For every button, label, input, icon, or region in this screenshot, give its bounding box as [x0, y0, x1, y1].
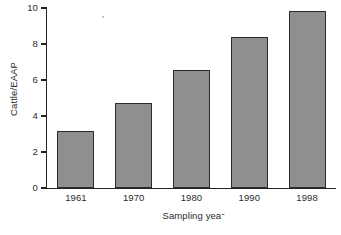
bars-layer	[47, 8, 336, 188]
y-axis-tick-label: 10	[27, 3, 38, 13]
bar-1961	[57, 131, 94, 188]
bar-1998	[289, 11, 326, 188]
y-axis-tick-mark	[41, 115, 46, 116]
x-axis-tick-label: 1990	[220, 192, 278, 204]
y-axis-tick-label: 6	[33, 75, 38, 85]
y-axis-tick-mark	[41, 43, 46, 44]
y-axis-tick-mark	[41, 79, 46, 80]
x-axis-tick-label: 1970	[105, 192, 163, 204]
x-axis-title-truncated-char: r	[221, 210, 224, 215]
y-axis-tick-label: 4	[33, 111, 38, 121]
x-axis-tick-label: 1980	[163, 192, 221, 204]
x-axis-tick-label: 1961	[47, 192, 105, 204]
bar-1980	[173, 70, 210, 188]
y-axis-tick-mark	[41, 187, 46, 188]
bar-1990	[231, 37, 268, 188]
y-axis-tick-mark	[41, 151, 46, 152]
x-axis-tick-label: 1998	[278, 192, 336, 204]
x-axis-title-text: Sampling yea	[162, 210, 221, 221]
y-axis-tick-mark	[41, 7, 46, 8]
y-axis-title: Cattle/EAAP	[9, 46, 19, 132]
x-axis-title: Sampling year	[0, 210, 341, 221]
y-axis-tick-label: 0	[33, 183, 38, 193]
x-axis-tick-labels: 19611970198019901998	[47, 192, 336, 208]
y-axis-tick-label: 2	[33, 147, 38, 157]
bar-1970	[115, 103, 152, 188]
y-axis-tick-label: 8	[33, 39, 38, 49]
bar-chart-figure: 1086420 Cattle/EAAP 19611970198019901998…	[0, 0, 341, 235]
